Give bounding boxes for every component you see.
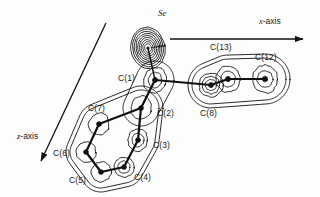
atom-node-C12 [262, 76, 267, 81]
atom-node-C3 [135, 137, 140, 142]
label-C1: C(1) [118, 73, 135, 83]
bond-C2-C3 [138, 108, 141, 140]
bond-C3-C4 [124, 140, 138, 167]
bond-layer [86, 48, 265, 172]
label-C4: C(4) [134, 172, 151, 182]
label-C8: C(8) [200, 108, 217, 118]
atom-node-C8 [208, 82, 213, 87]
label-C6: C(6) [53, 148, 70, 158]
label-C2: C(2) [157, 108, 174, 118]
x-axis-label: x-axis [259, 16, 281, 26]
label-C5: C(5) [69, 175, 86, 185]
z-axis-label: z-axis [17, 131, 38, 141]
atom-node-layer [83, 46, 267, 174]
bond-C4-C5 [101, 167, 124, 172]
atom-node-C6 [83, 149, 88, 154]
atom-node-C2 [138, 105, 143, 110]
atom-node-Se [146, 46, 149, 49]
atom-node-C4 [121, 164, 126, 169]
bond-C6-C7 [86, 124, 99, 152]
electron-density-contour-figure: SeC(1)C(2)C(3)C(4)C(5)C(6)C(7)C(8)C(13)C… [0, 0, 320, 197]
label-C12: C(12) [255, 52, 277, 62]
label-Se: Se [158, 8, 167, 18]
contour-envelope-0 [192, 58, 286, 104]
contour-map-canvas [0, 0, 320, 197]
atom-node-C7 [96, 121, 101, 126]
atom-node-C13 [225, 76, 230, 81]
label-C7: C(7) [88, 103, 105, 113]
atom-node-C1 [152, 77, 157, 82]
bond-C2-C7 [99, 108, 141, 124]
label-C3: C(3) [153, 140, 170, 150]
atom-node-C5 [98, 169, 103, 174]
label-C13: C(13) [210, 42, 232, 52]
